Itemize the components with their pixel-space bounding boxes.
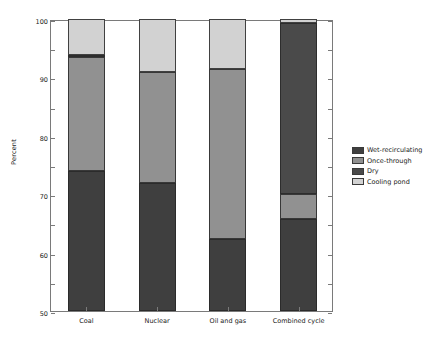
bar-combined-cycle[interactable]: [280, 19, 317, 311]
bar-segment-wet-recirculating[interactable]: [280, 219, 317, 311]
x-tick-mark: [228, 307, 229, 311]
bar-segment-wet-recirculating[interactable]: [68, 171, 105, 311]
y-tick-mark-right: [328, 284, 332, 285]
legend-swatch-icon: [352, 147, 364, 154]
bar-nuclear[interactable]: [139, 19, 176, 311]
x-tick-mark: [299, 307, 300, 311]
y-tick-label: 100: [36, 18, 48, 26]
y-tick-label: 60: [40, 252, 48, 260]
legend: Wet-recirculatingOnce-throughDryCooling …: [352, 145, 444, 187]
y-tick-mark: 20: [51, 255, 55, 256]
y-tick-mark: 30: [51, 225, 55, 226]
y-tick-mark-right: [328, 138, 332, 139]
x-tick-mark: [86, 307, 87, 311]
y-tick-mark: 60: [51, 138, 55, 139]
legend-label: Once-through: [367, 157, 412, 165]
legend-item[interactable]: Wet-recirculating: [352, 145, 444, 156]
y-tick-mark: 0: [51, 313, 55, 314]
y-tick-label: 80: [40, 135, 48, 143]
bar-segment-wet-recirculating[interactable]: [139, 183, 176, 311]
bar-oil-and-gas[interactable]: [209, 19, 246, 311]
legend-item[interactable]: Once-through: [352, 156, 444, 167]
y-tick-mark-right: [328, 79, 332, 80]
x-tick-label: Coal: [79, 317, 93, 325]
y-tick-mark: 10: [51, 284, 55, 285]
y-axis-title: Percent: [10, 122, 18, 182]
x-tick-label: Nuclear: [145, 317, 170, 325]
bar-segment-cooling-pond[interactable]: [139, 19, 176, 72]
y-tick-label: 90: [40, 76, 48, 84]
bar-segment-dry[interactable]: [68, 55, 105, 57]
x-tick-label: Oil and gas: [210, 317, 247, 325]
y-tick-mark-right: [328, 255, 332, 256]
bar-segment-cooling-pond[interactable]: [280, 19, 317, 23]
x-tick-label: Combined cycle: [273, 317, 325, 325]
y-tick-mark: 50: [51, 167, 55, 168]
y-tick-mark: 70: [51, 109, 55, 110]
bar-segment-once-through[interactable]: [209, 69, 246, 240]
chart-figure: Percent 0102030405060708090100 CoalNucle…: [0, 0, 444, 341]
y-tick-label: 50: [40, 310, 48, 318]
bar-coal[interactable]: [68, 19, 105, 311]
y-tick-mark: 40: [51, 196, 55, 197]
y-tick-label: 70: [40, 193, 48, 201]
y-tick-mark-right: [328, 109, 332, 110]
legend-item[interactable]: Dry: [352, 166, 444, 177]
y-tick-mark-right: [328, 50, 332, 51]
y-tick-mark-right: [328, 196, 332, 197]
y-tick-mark-right: [328, 225, 332, 226]
legend-swatch-icon: [352, 178, 364, 185]
legend-swatch-icon: [352, 168, 364, 175]
y-tick-mark: 80: [51, 79, 55, 80]
y-tick-mark: 90: [51, 50, 55, 51]
legend-label: Wet-recirculating: [367, 146, 422, 154]
bar-segment-wet-recirculating[interactable]: [209, 239, 246, 311]
legend-item[interactable]: Cooling pond: [352, 177, 444, 188]
y-tick-mark-right: [328, 313, 332, 314]
x-tick-mark: [157, 307, 158, 311]
legend-label: Dry: [367, 167, 379, 175]
bar-segment-once-through[interactable]: [68, 57, 105, 171]
bar-segment-once-through[interactable]: [280, 194, 317, 219]
y-tick-mark-right: [328, 21, 332, 22]
legend-label: Cooling pond: [367, 178, 410, 186]
plot-area: 0102030405060708090100 CoalNuclearOil an…: [50, 20, 333, 312]
legend-swatch-icon: [352, 157, 364, 164]
bar-segment-cooling-pond[interactable]: [209, 19, 246, 69]
y-tick-mark-right: [328, 167, 332, 168]
bar-segment-once-through[interactable]: [139, 72, 176, 183]
bar-segment-dry[interactable]: [280, 23, 317, 195]
y-tick-mark: 100: [51, 21, 55, 22]
bar-segment-cooling-pond[interactable]: [68, 19, 105, 55]
